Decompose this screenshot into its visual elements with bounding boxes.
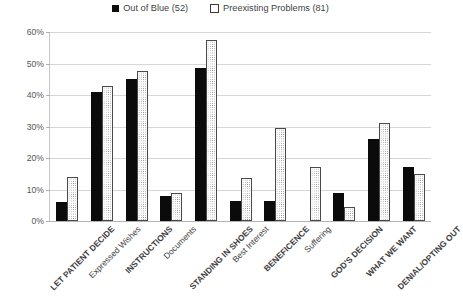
- x-axis-label-cell: Suffering: [291, 222, 326, 305]
- x-axis-label-cell: BENEFICENCE: [257, 222, 292, 305]
- bar-group: [396, 32, 431, 221]
- legend-entry-out-of-blue: Out of Blue (52): [112, 3, 188, 13]
- x-axis-label-cell: GOD'S DECISION: [326, 222, 361, 305]
- x-axis-tick-label: DENIAL/OPTING OUT: [395, 224, 463, 292]
- legend-label-out-of-blue: Out of Blue (52): [123, 3, 188, 13]
- bar-group: [50, 32, 85, 221]
- bar-group: [154, 32, 189, 221]
- bar-out-of-blue: [126, 79, 137, 221]
- bar-preexisting-problems: [414, 174, 425, 221]
- bar-preexisting-problems: [310, 167, 321, 221]
- bar-group: [189, 32, 224, 221]
- bar-group: [327, 32, 362, 221]
- bar-preexisting-problems: [379, 123, 390, 221]
- bar-preexisting-problems: [206, 40, 217, 221]
- x-axis-label-cell: Best Interest: [222, 222, 257, 305]
- bar-preexisting-problems: [171, 193, 182, 221]
- bar-out-of-blue: [195, 68, 206, 221]
- x-axis-label-cell: WHAT WE WANT: [361, 222, 396, 305]
- bar-preexisting-problems: [344, 207, 355, 221]
- x-axis-labels: LET PATIENT DECIDEExpressed WishesINSTRU…: [49, 222, 430, 305]
- bar-out-of-blue: [403, 167, 414, 221]
- y-axis-tick-label: 40%: [27, 90, 44, 100]
- y-axis-tick-label: 60%: [27, 27, 44, 37]
- y-axis-tick-label: 30%: [27, 122, 44, 132]
- bar-preexisting-problems: [67, 177, 78, 221]
- bar-out-of-blue: [230, 201, 241, 221]
- legend-swatch-solid-icon: [112, 5, 119, 12]
- x-axis-label-cell: Expressed Wishes: [84, 222, 119, 305]
- bar-out-of-blue: [56, 202, 67, 221]
- plot-area: 0%10%20%30%40%50%60%: [49, 32, 430, 221]
- chart-legend: Out of Blue (52) Preexisting Problems (8…: [0, 3, 441, 13]
- bar-group: [223, 32, 258, 221]
- legend-label-preexisting-problems: Preexisting Problems (81): [223, 3, 329, 13]
- x-axis-label-cell: STANDING IN SHOES: [188, 222, 223, 305]
- x-axis-label-cell: Documents: [153, 222, 188, 305]
- x-axis-label-cell: DENIAL/OPTING OUT: [395, 222, 430, 305]
- bar-group: [292, 32, 327, 221]
- bar-out-of-blue: [264, 201, 275, 221]
- bar-out-of-blue: [160, 196, 171, 221]
- x-axis-label-cell: INSTRUCTIONS: [118, 222, 153, 305]
- y-axis-tick-label: 50%: [27, 59, 44, 69]
- legend-swatch-dotted-icon: [210, 4, 219, 13]
- legend-entry-preexisting-problems: Preexisting Problems (81): [210, 3, 329, 13]
- bar-group: [85, 32, 120, 221]
- x-axis-label-cell: LET PATIENT DECIDE: [49, 222, 84, 305]
- bar-groups: [50, 32, 431, 221]
- bar-preexisting-problems: [275, 128, 286, 221]
- bar-out-of-blue: [368, 139, 379, 221]
- y-axis-tick-label: 20%: [27, 153, 44, 163]
- bar-group: [119, 32, 154, 221]
- bar-out-of-blue: [333, 193, 344, 221]
- bar-group: [258, 32, 293, 221]
- bar-group: [362, 32, 397, 221]
- bar-preexisting-problems: [102, 86, 113, 221]
- bar-out-of-blue: [91, 92, 102, 221]
- bar-preexisting-problems: [137, 71, 148, 221]
- y-axis-tick-label: 0%: [32, 216, 44, 226]
- bar-preexisting-problems: [241, 178, 252, 221]
- y-axis-tick-label: 10%: [27, 185, 44, 195]
